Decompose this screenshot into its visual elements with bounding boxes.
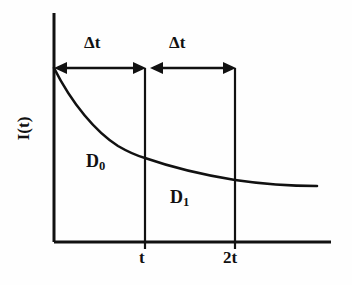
region-d1-label: D1 <box>170 188 189 206</box>
interval-arrow-2 <box>150 62 236 74</box>
region-d1-subscript: 1 <box>183 195 189 209</box>
x-tick-label-2t: 2t <box>223 249 237 266</box>
region-d0-subscript: 0 <box>99 159 105 173</box>
interval-arrow-1 <box>54 62 146 74</box>
region-d0-letter: D <box>86 151 99 171</box>
y-axis-label: I(t) <box>12 98 34 160</box>
region-d0-label: D0 <box>86 152 105 170</box>
region-d1-letter: D <box>170 187 183 207</box>
interval-1-label: Δt <box>84 34 100 51</box>
decay-curve-figure: Δt Δt D0 D1 t 2t I(t) <box>0 0 352 285</box>
interval-2-label: Δt <box>169 34 185 51</box>
y-axis-label-text: I(t) <box>15 107 32 151</box>
x-tick-label-t: t <box>139 249 145 266</box>
